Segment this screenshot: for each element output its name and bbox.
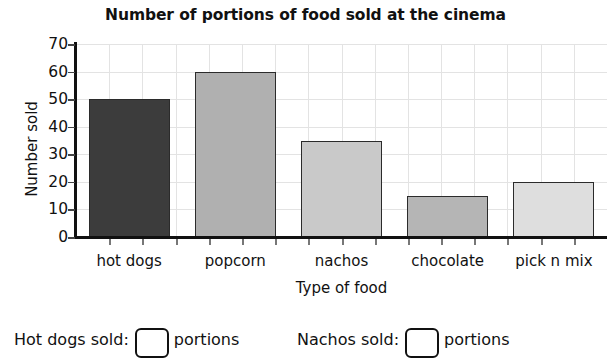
y-axis-tick-label: 30	[32, 146, 68, 162]
y-axis-tick-mark	[68, 72, 75, 74]
y-axis-tick-mark	[68, 209, 75, 211]
x-axis-category-label: pick n mix	[501, 252, 607, 270]
y-axis-tick-mark	[68, 182, 75, 184]
x-axis-tick-mark	[342, 239, 344, 245]
bar-pick-n-mix	[513, 182, 594, 237]
hot-dogs-answer-input[interactable]	[135, 328, 169, 358]
plot-area	[76, 44, 607, 237]
question-nachos: Nachos sold: portions	[297, 324, 510, 355]
question-row: Hot dogs sold: portions Nachos sold: por…	[0, 324, 611, 355]
y-axis-tick-label: 20	[32, 174, 68, 190]
bar-popcorn	[195, 72, 276, 237]
bar-chocolate	[407, 196, 488, 237]
y-axis-tick-mark	[68, 127, 75, 129]
x-axis-tick-mark	[408, 239, 410, 245]
bar-hot-dogs	[89, 99, 170, 237]
x-axis-tick-mark	[142, 239, 144, 245]
x-axis-category-label: popcorn	[182, 252, 288, 270]
x-axis-category-label: hot dogs	[76, 252, 182, 270]
x-axis-tick-mark	[441, 239, 443, 245]
y-axis-tick-label: 10	[32, 201, 68, 217]
x-axis-tick-mark	[308, 239, 310, 245]
x-axis-tick-mark	[109, 239, 111, 245]
x-axis-tick-mark	[275, 239, 277, 245]
gridline-vertical	[507, 44, 508, 237]
question-hot-dogs: Hot dogs sold: portions	[14, 324, 239, 355]
x-axis-tick-mark	[242, 239, 244, 245]
y-axis-tick-label: 70	[32, 36, 68, 52]
x-axis-category-label: chocolate	[395, 252, 501, 270]
x-axis-line	[74, 236, 607, 239]
y-axis-tick-label: 50	[32, 91, 68, 107]
x-axis-tick-mark	[507, 239, 509, 245]
x-axis-tick-mark	[209, 239, 211, 245]
y-axis-tick-label: 0	[32, 229, 68, 245]
nachos-answer-input[interactable]	[405, 328, 439, 358]
x-axis-title: Type of food	[76, 279, 607, 297]
y-axis-tick-labels: 706050403020100	[28, 0, 68, 305]
x-axis-tick-mark	[474, 239, 476, 245]
y-axis-tick-mark	[68, 154, 75, 156]
bar-nachos	[301, 141, 382, 238]
bar-chart: Number sold 706050403020100 Type of food…	[0, 0, 611, 305]
y-axis-tick-mark	[68, 44, 75, 46]
question-nachos-unit: portions	[443, 330, 510, 349]
x-axis-tick-mark	[541, 239, 543, 245]
x-axis-tick-mark	[375, 239, 377, 245]
x-axis-tick-mark	[574, 239, 576, 245]
y-axis-tick-label: 40	[32, 119, 68, 135]
question-nachos-label: Nachos sold:	[297, 330, 401, 349]
y-axis-tick-mark	[68, 99, 75, 101]
y-axis-tick-label: 60	[32, 64, 68, 80]
x-axis-tick-mark	[176, 239, 178, 245]
y-axis-tick-mark	[68, 237, 75, 239]
gridline-vertical	[176, 44, 177, 237]
x-axis-category-label: nachos	[288, 252, 394, 270]
question-hot-dogs-label: Hot dogs sold:	[14, 330, 131, 349]
question-hot-dogs-unit: portions	[173, 330, 240, 349]
